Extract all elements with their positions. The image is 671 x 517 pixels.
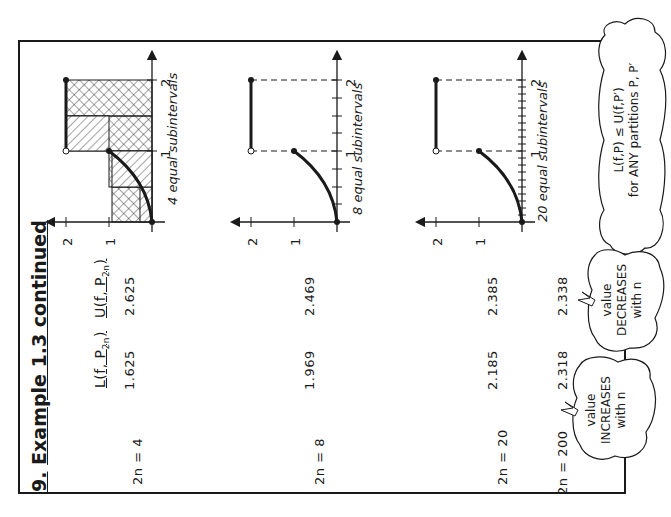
increases-line1: value bbox=[584, 370, 599, 450]
decreases-line2: DECREASES bbox=[615, 260, 630, 340]
graph-8-subintervals bbox=[235, 55, 350, 232]
increases-line2: INCREASES bbox=[599, 370, 614, 450]
g2-caption: 8 equal subintervals bbox=[350, 83, 365, 215]
inequality-line1: L(f,P) ≤ U(f,P′) bbox=[612, 35, 627, 225]
g3-caption: 20 equal subintervals bbox=[535, 82, 550, 222]
g1-ytick-1: 1 bbox=[103, 237, 118, 246]
cloud-decreases: value DECREASES with n bbox=[600, 260, 645, 340]
g3-ytick-1: 1 bbox=[473, 237, 488, 246]
graph-20-subintervals bbox=[420, 55, 535, 232]
g3-ytick-2: 2 bbox=[430, 237, 445, 246]
g2-ytick-1: 1 bbox=[288, 237, 303, 246]
graph-4-subintervals bbox=[50, 55, 165, 232]
g2-ytick-2: 2 bbox=[245, 237, 260, 246]
g1-caption: 4 equal subintervals bbox=[165, 73, 180, 205]
cloud-increases: value INCREASES with n bbox=[584, 370, 629, 450]
increases-line3: with n bbox=[614, 370, 629, 450]
riemann-graphs bbox=[0, 0, 671, 517]
decreases-line1: value bbox=[600, 260, 615, 340]
g1-ytick-2: 2 bbox=[60, 237, 75, 246]
cloud-inequality: L(f,P) ≤ U(f,P′) for ANY partitions P, P… bbox=[612, 35, 642, 225]
decreases-line3: with n bbox=[630, 260, 645, 340]
inequality-line2: for ANY partitions P, P′ bbox=[627, 35, 642, 225]
